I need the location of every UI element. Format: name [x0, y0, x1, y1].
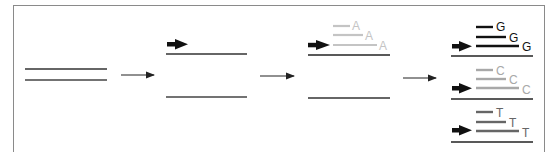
base-label-t: T — [496, 106, 504, 120]
base-label-c: C — [522, 83, 531, 97]
process-arrow-3 — [403, 75, 437, 82]
process-arrow-2 — [260, 73, 295, 80]
base-label-g: G — [496, 20, 505, 34]
base-label-a: A — [352, 19, 360, 33]
base-label-g: G — [509, 31, 518, 45]
primer-arrow-icon — [308, 40, 330, 50]
double-strand-dna — [25, 69, 107, 80]
a-termination-panel: A A A — [308, 19, 390, 98]
primer-arrow-icon — [452, 83, 472, 94]
denatured-strands — [166, 39, 247, 97]
process-arrow-1 — [121, 72, 155, 79]
base-label-a: A — [365, 29, 373, 43]
base-label-t: T — [509, 116, 517, 130]
base-label-g: G — [522, 40, 531, 54]
primer-arrow-icon — [452, 125, 472, 136]
base-label-c: C — [509, 73, 518, 87]
c-termination-group: C C C — [451, 64, 533, 99]
g-termination-group: G G G — [451, 20, 533, 56]
primer-arrow-icon — [167, 39, 188, 50]
sequencing-diagram: A A A G G G C C C — [0, 0, 559, 152]
base-label-t: T — [522, 126, 530, 140]
base-label-a: A — [379, 39, 387, 53]
primer-arrow-icon — [452, 41, 472, 52]
t-termination-group: T T T — [451, 106, 533, 142]
base-label-c: C — [496, 64, 505, 78]
